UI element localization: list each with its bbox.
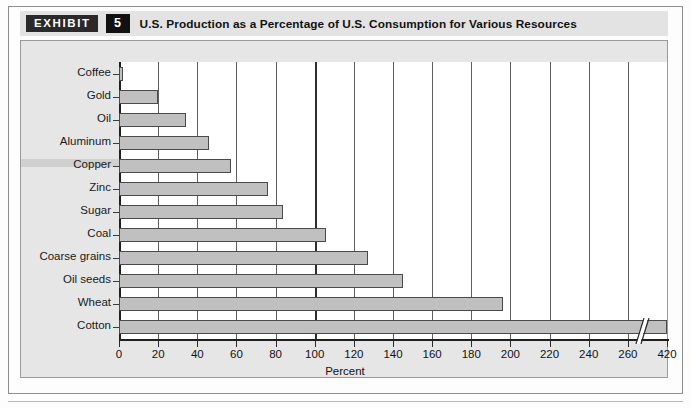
value-tick-label-120: 120 xyxy=(344,348,363,360)
value-tick-240 xyxy=(589,341,590,347)
value-axis-title: Percent xyxy=(21,365,669,377)
category-tick-coal xyxy=(113,235,119,236)
category-label-cotton: Cotton xyxy=(19,319,111,331)
category-tick-wheat xyxy=(113,304,119,305)
category-tick-coarse-grains xyxy=(113,258,119,259)
bar-copper xyxy=(119,159,231,173)
bar-zinc xyxy=(119,182,268,196)
gridline-220 xyxy=(550,62,551,339)
bar-oil-seeds xyxy=(119,274,403,288)
value-tick-label-100: 100 xyxy=(305,348,324,360)
value-tick-220 xyxy=(550,341,551,347)
exhibit-title: U.S. Production as a Percentage of U.S. … xyxy=(140,17,577,31)
bar-coal xyxy=(119,228,326,242)
category-tick-gold xyxy=(113,97,119,98)
value-tick-label-80: 80 xyxy=(269,348,282,360)
category-tick-oil-seeds xyxy=(113,281,119,282)
exhibit-number-badge: 5 xyxy=(106,14,130,33)
value-tick-20 xyxy=(158,341,159,347)
chart-panel: CoffeeGoldOilAluminumCopperZincSugarCoal… xyxy=(20,40,668,378)
value-tick-label-160: 160 xyxy=(423,348,442,360)
value-tick-label-420: 420 xyxy=(657,348,676,360)
page-border-bottom xyxy=(8,393,683,394)
value-tick-200 xyxy=(510,341,511,347)
value-tick-180 xyxy=(471,341,472,347)
category-label-oil: Oil xyxy=(19,112,111,124)
value-tick-label-200: 200 xyxy=(501,348,520,360)
value-tick-80 xyxy=(276,341,277,347)
category-label-copper: Copper xyxy=(19,158,111,170)
category-label-wheat: Wheat xyxy=(19,296,111,308)
value-tick-label-40: 40 xyxy=(191,348,204,360)
value-tick-100 xyxy=(315,341,316,347)
category-label-coffee: Coffee xyxy=(19,66,111,78)
bar-cotton xyxy=(119,320,667,334)
bar-coffee xyxy=(119,67,123,81)
value-tick-0 xyxy=(119,341,120,347)
value-tick-label-140: 140 xyxy=(383,348,402,360)
value-tick-60 xyxy=(236,341,237,347)
category-tick-sugar xyxy=(113,212,119,213)
plot-area xyxy=(119,62,667,339)
page-footer-rule xyxy=(8,401,683,402)
value-tick-420 xyxy=(667,341,668,347)
category-label-coal: Coal xyxy=(19,227,111,239)
category-tick-oil xyxy=(113,120,119,121)
value-tick-120 xyxy=(354,341,355,347)
category-tick-cotton xyxy=(113,327,119,328)
value-tick-40 xyxy=(197,341,198,347)
exhibit-header: EXHIBIT 5 U.S. Production as a Percentag… xyxy=(20,11,668,36)
exhibit-tag-label: EXHIBIT xyxy=(26,15,98,33)
value-tick-label-20: 20 xyxy=(152,348,165,360)
category-label-coarse-grains: Coarse grains xyxy=(19,250,111,262)
value-tick-140 xyxy=(393,341,394,347)
value-tick-label-240: 240 xyxy=(579,348,598,360)
category-label-sugar: Sugar xyxy=(19,204,111,216)
category-tick-zinc xyxy=(113,189,119,190)
value-tick-label-220: 220 xyxy=(540,348,559,360)
page-border-right xyxy=(682,6,683,394)
value-tick-label-180: 180 xyxy=(462,348,481,360)
bar-gold xyxy=(119,90,158,104)
bar-aluminum xyxy=(119,136,209,150)
page-border-left xyxy=(8,6,9,394)
bar-coarse-grains xyxy=(119,251,368,265)
category-tick-copper xyxy=(113,166,119,167)
category-label-aluminum: Aluminum xyxy=(19,135,111,147)
value-tick-label-60: 60 xyxy=(230,348,243,360)
category-label-oil-seeds: Oil seeds xyxy=(19,273,111,285)
value-tick-160 xyxy=(432,341,433,347)
value-axis-line xyxy=(119,339,669,341)
value-tick-label-0: 0 xyxy=(116,348,122,360)
bar-wheat xyxy=(119,297,503,311)
page-border-top xyxy=(8,6,683,7)
gridline-240 xyxy=(589,62,590,339)
bar-sugar xyxy=(119,205,283,219)
category-label-zinc: Zinc xyxy=(19,181,111,193)
exhibit-page: EXHIBIT 5 U.S. Production as a Percentag… xyxy=(0,0,691,408)
value-tick-260 xyxy=(628,341,629,347)
bar-oil xyxy=(119,113,186,127)
category-label-gold: Gold xyxy=(19,89,111,101)
gridline-260 xyxy=(628,62,629,339)
category-tick-aluminum xyxy=(113,143,119,144)
value-tick-label-260: 260 xyxy=(618,348,637,360)
category-tick-coffee xyxy=(113,74,119,75)
gridline-200 xyxy=(510,62,511,339)
